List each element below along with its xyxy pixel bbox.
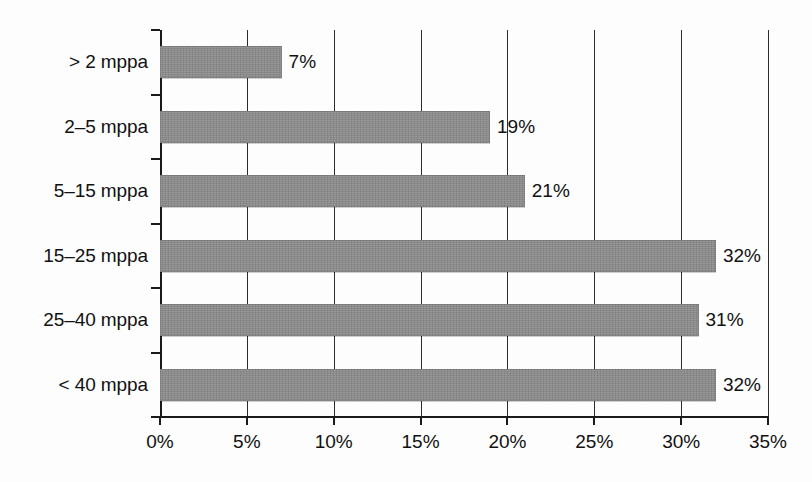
- x-axis-line: [159, 416, 769, 418]
- bar: [160, 304, 699, 336]
- bar: [160, 46, 282, 78]
- bar-value-label: 7%: [289, 52, 316, 71]
- x-axis-tick: [506, 416, 508, 425]
- y-axis-line: [160, 30, 162, 417]
- x-axis-tick-label: 10%: [315, 432, 353, 452]
- gridline-25: [594, 30, 595, 417]
- gridline-35: [768, 30, 769, 417]
- category-label: < 40 mppa: [0, 375, 148, 394]
- plot-area: [160, 30, 768, 417]
- x-axis-tick: [246, 416, 248, 425]
- y-axis-tick: [151, 352, 160, 354]
- category-label: 15–25 mppa: [0, 246, 148, 265]
- x-axis-tick-label: 20%: [488, 432, 526, 452]
- x-axis-tick-label: 35%: [749, 432, 787, 452]
- category-label: 25–40 mppa: [0, 310, 148, 329]
- x-axis-tick-label: 25%: [575, 432, 613, 452]
- bar-value-label: 32%: [723, 375, 761, 394]
- bar: [160, 175, 525, 207]
- category-label: 5–15 mppa: [0, 181, 148, 200]
- gridline-15: [421, 30, 422, 417]
- bar: [160, 111, 490, 143]
- y-axis-end-tick: [151, 29, 160, 31]
- bar-value-label: 32%: [723, 246, 761, 265]
- x-axis-tick: [333, 416, 335, 425]
- bar-value-label: 19%: [497, 117, 535, 136]
- gridline-5: [247, 30, 248, 417]
- x-axis-tick: [593, 416, 595, 425]
- bar: [160, 369, 716, 401]
- bar-chart: > 2 mppa2–5 mppa5–15 mppa15–25 mppa25–40…: [0, 0, 812, 482]
- bar-value-label: 21%: [532, 181, 570, 200]
- gridline-10: [334, 30, 335, 417]
- gridline-20: [507, 30, 508, 417]
- y-axis-category-labels: > 2 mppa2–5 mppa5–15 mppa15–25 mppa25–40…: [0, 30, 148, 417]
- x-axis-tick: [767, 416, 769, 425]
- category-label: 2–5 mppa: [0, 117, 148, 136]
- x-axis-tick-label: 30%: [662, 432, 700, 452]
- x-axis-tick: [159, 416, 161, 425]
- x-axis-tick-label: 5%: [233, 432, 260, 452]
- x-axis-tick: [680, 416, 682, 425]
- y-axis-tick: [151, 94, 160, 96]
- y-axis-tick: [151, 287, 160, 289]
- bar-value-label: 31%: [706, 310, 744, 329]
- bar: [160, 240, 716, 272]
- gridline-30: [681, 30, 682, 417]
- y-axis-tick: [151, 158, 160, 160]
- x-axis-tick: [420, 416, 422, 425]
- y-axis-tick: [151, 223, 160, 225]
- x-axis-tick-label: 15%: [402, 432, 440, 452]
- x-axis-tick-label: 0%: [146, 432, 173, 452]
- category-label: > 2 mppa: [0, 52, 148, 71]
